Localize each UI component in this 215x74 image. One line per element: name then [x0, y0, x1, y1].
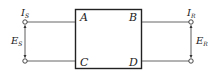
sending-bottom-terminal	[23, 59, 27, 63]
sending-current-label: IS	[20, 7, 29, 19]
corner-label-b: B	[128, 11, 137, 24]
receiving-top-terminal	[189, 20, 193, 24]
corner-label-d: D	[128, 56, 138, 69]
sending-voltage-label: ES	[10, 35, 22, 47]
sending-top-terminal	[23, 20, 27, 24]
receiving-bottom-terminal	[189, 59, 193, 63]
corner-label-a: A	[79, 11, 88, 24]
receiving-current-label: IR	[186, 7, 196, 19]
receiving-voltage-label: ER	[195, 35, 208, 47]
corner-label-c: C	[80, 56, 89, 69]
two-port-network-diagram: A B C D IS ES IR ER	[0, 0, 215, 74]
